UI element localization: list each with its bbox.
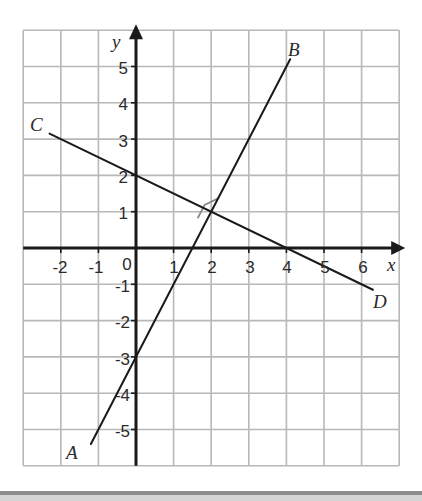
point-label-b: B xyxy=(288,39,300,60)
right-angle-icon xyxy=(198,198,218,218)
x-tick-label: -2 xyxy=(52,258,67,277)
y-tick-label: 1 xyxy=(119,204,128,223)
bottom-bar xyxy=(0,491,422,501)
x-tick-label: 3 xyxy=(245,258,254,277)
x-tick-label: 5 xyxy=(320,258,329,277)
point-label-a: A xyxy=(64,442,78,463)
x-tick-label: 6 xyxy=(358,258,367,277)
x-tick-labels: -2 -1 0 1 2 3 4 5 6 xyxy=(52,255,367,277)
right-angle-marker xyxy=(198,198,218,218)
bottom-bar-light-stripe xyxy=(0,495,422,501)
y-tick-label: 5 xyxy=(119,59,128,78)
coordinate-diagram: -2 -1 0 1 2 3 4 5 6 5 4 3 2 1 -1 -2 -3 -… xyxy=(0,0,422,501)
point-label-c: C xyxy=(30,114,43,135)
x-tick-label: -1 xyxy=(88,258,103,277)
y-axis-arrow-icon xyxy=(129,24,143,39)
x-tick-label: 0 xyxy=(122,255,131,274)
x-tick-label: 1 xyxy=(169,258,178,277)
y-tick-label: 4 xyxy=(119,95,128,114)
point-label-d: D xyxy=(372,291,387,312)
y-tick-label: -5 xyxy=(115,422,130,441)
x-tick-label: 4 xyxy=(282,258,291,277)
x-axis-arrow-icon xyxy=(391,241,405,255)
y-tick-label: -2 xyxy=(115,313,130,332)
y-tick-label: -3 xyxy=(115,350,130,369)
x-axis-label: x xyxy=(386,254,396,275)
y-tick-label: 2 xyxy=(119,168,128,187)
y-tick-label: -4 xyxy=(115,386,130,405)
y-tick-label: -1 xyxy=(115,277,130,296)
y-tick-label: 3 xyxy=(119,132,128,151)
axes xyxy=(23,24,405,466)
y-axis-label: y xyxy=(110,31,121,52)
x-tick-label: 2 xyxy=(207,258,216,277)
